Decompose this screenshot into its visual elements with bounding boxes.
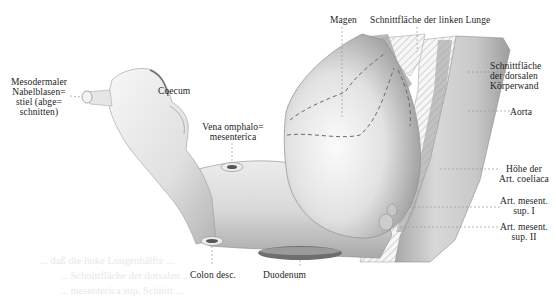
colon-desc-stub [201, 237, 223, 246]
label-schnittflaeche-koerperwand: Schnittfläche der dorsalen Körperwand [490, 61, 541, 91]
umbilical-stalk-stub [82, 90, 112, 106]
background-text-line: ... mesenterica sup. Schnitt ... [60, 285, 183, 296]
background-text-line: ... Schnittfläche der dorsalen ... [60, 270, 191, 281]
label-colon-desc: Colon desc. [190, 270, 236, 280]
label-coecum: Coecum [158, 86, 190, 96]
label-art-mesent-sup-1: Art. mesent. sup. I [494, 196, 554, 216]
label-mesodermaler-nabelblasenstiel: Mesodermaler Nabelblasen= stiel (abge= s… [4, 77, 74, 117]
label-art-mesent-sup-2: Art. mesent. sup. II [494, 222, 554, 242]
label-schnittflaeche-lunge: Schnittfläche der linken Lunge [370, 15, 490, 25]
label-hoehe-art-coeliaca: Höhe der Art. coeliaca [494, 164, 554, 184]
background-text-line: ... daß die linke Lungenhälfte ... [40, 255, 174, 266]
vena-omphalomesenterica-stub [221, 163, 243, 172]
label-duodenum: Duodenum [263, 270, 306, 280]
label-aorta: Aorta [510, 107, 532, 117]
label-vena-omphalomesenterica: Vena omphalo= mesenterica [196, 122, 270, 142]
label-magen: Magen [330, 15, 357, 25]
